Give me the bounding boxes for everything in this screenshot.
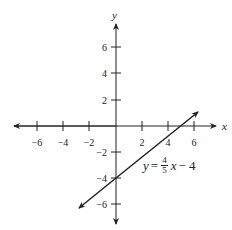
y-tick-label: 6 bbox=[102, 42, 107, 53]
x-tick-label: −2 bbox=[84, 137, 95, 148]
x-tick-label: 4 bbox=[166, 137, 171, 148]
y-tick-label: −2 bbox=[96, 147, 107, 158]
eq-fraction: 4 5 bbox=[161, 156, 168, 175]
eq-denominator: 5 bbox=[162, 166, 167, 175]
y-tick-label: 4 bbox=[102, 68, 107, 79]
x-tick-label: 6 bbox=[192, 137, 197, 148]
coordinate-plane: −6 −4 −2 2 4 6 6 4 2 −2 −4 −6 x y bbox=[0, 0, 232, 230]
y-axis-label: y bbox=[111, 9, 117, 21]
x-tick-label: −6 bbox=[32, 137, 43, 148]
y-tick-label: 2 bbox=[102, 95, 107, 106]
eq-equals: = bbox=[151, 158, 158, 174]
x-tick-label: −4 bbox=[58, 137, 69, 148]
eq-constant: − 4 bbox=[178, 158, 195, 174]
equation-label: y = 4 5 x − 4 bbox=[143, 156, 196, 175]
x-tick-label: 2 bbox=[140, 137, 145, 148]
eq-x: x bbox=[171, 158, 177, 174]
x-axis-label: x bbox=[221, 120, 227, 132]
eq-y: y bbox=[143, 158, 149, 174]
y-tick-label: −6 bbox=[96, 199, 107, 210]
y-tick-label: −4 bbox=[96, 173, 107, 184]
